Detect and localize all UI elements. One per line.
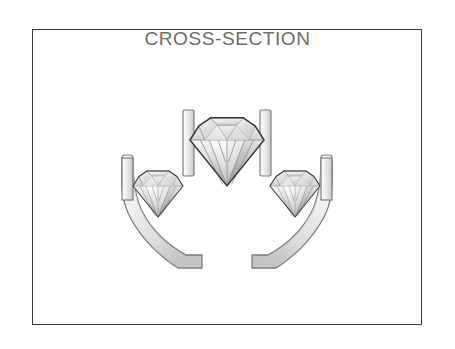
diagram-canvas: CROSS-SECTION [0, 0, 455, 349]
page-title: CROSS-SECTION [0, 28, 455, 50]
diagram-frame [32, 29, 422, 325]
